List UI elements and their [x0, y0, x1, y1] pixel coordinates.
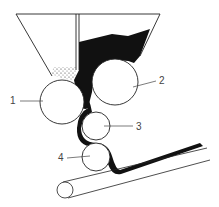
- label-1: 1: [10, 95, 16, 106]
- roller-1: [40, 80, 84, 124]
- roller-2: [92, 59, 138, 105]
- conveyor-roller: [57, 182, 73, 198]
- material-dotted-hopper: [51, 67, 76, 80]
- label-4: 4: [58, 152, 64, 163]
- conveyor: [57, 148, 210, 198]
- label-2: 2: [159, 75, 165, 86]
- roller-4: [82, 143, 110, 171]
- roller-diagram: 1 2 3 4: [0, 0, 219, 207]
- label-3: 3: [136, 121, 142, 132]
